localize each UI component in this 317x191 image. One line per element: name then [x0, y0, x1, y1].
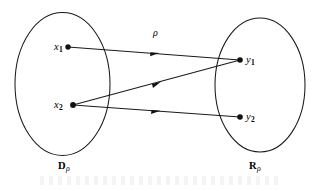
node-dot-y1: [237, 57, 243, 63]
node-dot-y2: [237, 114, 243, 120]
domain-ellipse: [15, 13, 110, 156]
range-set-label-base: R: [249, 160, 257, 171]
node-label-y2-base: y: [246, 111, 251, 122]
node-label-x1-base: x: [54, 41, 59, 52]
domain-set-label-subscript: ρ: [66, 164, 70, 173]
node-dot-x2: [70, 102, 76, 108]
scan-artifact: [40, 176, 280, 185]
node-label-y2: y2: [246, 112, 255, 124]
node-label-y1-base: y: [246, 54, 251, 65]
domain-set-label: Dρ: [58, 161, 70, 173]
node-dot-x1: [65, 44, 70, 49]
range-ellipse: [215, 18, 305, 152]
diagram-canvas: [0, 0, 317, 191]
domain-set-label-base: D: [58, 160, 66, 171]
relation-diagram: x1 x2 y1 y2 Dρ Rρ ρ: [0, 0, 317, 191]
node-label-y2-subscript: 2: [251, 115, 255, 124]
node-label-x2: x2: [54, 100, 63, 112]
node-label-x1-subscript: 1: [59, 45, 63, 54]
relation-label-rho: ρ: [153, 28, 158, 38]
node-label-y1-subscript: 1: [251, 58, 255, 67]
arrowhead-x2-to-y2: [151, 110, 161, 114]
range-set-label: Rρ: [249, 161, 261, 173]
node-label-x2-base: x: [54, 99, 59, 110]
node-label-x1: x1: [54, 42, 63, 54]
range-set-label-subscript: ρ: [257, 164, 261, 173]
node-label-y1: y1: [246, 55, 255, 67]
node-label-x2-subscript: 2: [59, 103, 63, 112]
